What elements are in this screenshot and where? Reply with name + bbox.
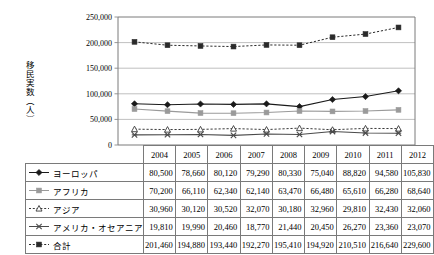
year-header-2005: 2005: [176, 146, 208, 164]
year-header-2006: 2006: [208, 146, 240, 164]
cross-marker: [132, 132, 137, 137]
series-label: 合計: [53, 239, 71, 251]
table-cell: 30,180: [272, 200, 304, 218]
table-cell: 30,120: [176, 200, 208, 218]
table-row: ヨーロッパ80,50078,66080,12079,29080,33075,04…: [26, 164, 434, 182]
table-cell: 19,810: [144, 218, 176, 236]
table-cell: 201,460: [144, 236, 176, 254]
table-cell: 23,070: [401, 218, 433, 236]
diamond-marker: [329, 96, 335, 102]
year-header-2010: 2010: [337, 146, 369, 164]
table-cell: 194,920: [305, 236, 337, 254]
y-tick-label: 200,000: [86, 39, 112, 48]
table-cell: 20,450: [305, 218, 337, 236]
table-cell: 210,510: [337, 236, 369, 254]
table-cell: 229,600: [401, 236, 433, 254]
table-cell: 68,640: [401, 182, 433, 200]
y-tick-label: 150,000: [86, 64, 112, 73]
legend-cell: アジア: [26, 200, 144, 218]
table-cell: 32,060: [401, 200, 433, 218]
table-cell: 23,360: [369, 218, 401, 236]
square-marker: [28, 186, 50, 195]
square-marker: [264, 110, 269, 115]
table-corner-cell: [26, 146, 144, 164]
table-cell: 32,960: [305, 200, 337, 218]
table-cell: 29,810: [337, 200, 369, 218]
table-cell: 79,290: [240, 164, 272, 182]
table-cell: 62,340: [208, 182, 240, 200]
table-cell: 32,430: [369, 200, 401, 218]
square-marker: [132, 107, 137, 112]
legend-cell: ヨーロッパ: [26, 164, 144, 182]
table-cell: 80,120: [208, 164, 240, 182]
line-chart: 250,000200,000150,000100,00050,0000: [0, 10, 434, 155]
chart-canvas: 250,000200,000150,000100,00050,0000: [0, 10, 434, 155]
table-row: アジア30,96030,12030,52032,07030,18032,9602…: [26, 200, 434, 218]
series-layer: [131, 25, 401, 138]
table-cell: 19,990: [176, 218, 208, 236]
cross-marker: [231, 133, 236, 138]
triangle-marker: [165, 127, 171, 133]
legend-marker-wrap: [28, 168, 50, 177]
table-cell: 70,200: [144, 182, 176, 200]
y-tick-label: 250,000: [86, 13, 112, 22]
table-cell: 30,520: [208, 200, 240, 218]
table-cell: 20,460: [208, 218, 240, 236]
legend-marker-wrap: [28, 204, 50, 213]
year-header-2007: 2007: [240, 146, 272, 164]
square-marker: [330, 109, 335, 114]
diamond-marker: [362, 93, 368, 99]
y-tick-label: 50,000: [90, 115, 112, 124]
diamond-marker: [197, 101, 203, 107]
year-header-2012: 2012: [401, 146, 433, 164]
cross-marker: [28, 222, 50, 231]
table-cell: 30,960: [144, 200, 176, 218]
diamond-marker: [395, 88, 401, 94]
table-cell: 26,270: [337, 218, 369, 236]
cross-marker: [36, 224, 41, 229]
table-cell: 195,410: [272, 236, 304, 254]
series-0: [131, 88, 401, 110]
table-cell: 192,270: [240, 236, 272, 254]
table-cell: 65,610: [337, 182, 369, 200]
table-cell: 78,660: [176, 164, 208, 182]
series-4: [132, 25, 401, 49]
year-header-2009: 2009: [305, 146, 337, 164]
table-cell: 21,440: [272, 218, 304, 236]
diamond-marker: [230, 101, 236, 107]
square-marker: [37, 242, 42, 247]
series-label: アメリカ・オセアニア: [53, 221, 143, 233]
square-marker: [231, 111, 236, 116]
square-marker: [396, 107, 401, 112]
square-marker: [198, 44, 203, 49]
legend-marker-wrap: [28, 222, 50, 231]
data-table: 200420052006200720082009201020112012 ヨーロ…: [25, 145, 434, 254]
series-2: [132, 125, 402, 132]
table-row: 合計201,460194,880193,440192,270195,410194…: [26, 236, 434, 254]
table-cell: 194,880: [176, 236, 208, 254]
square-marker: [37, 188, 42, 193]
table-cell: 105,830: [401, 164, 433, 182]
square-marker: [165, 109, 170, 114]
square-marker: [297, 109, 302, 114]
square-marker: [363, 109, 368, 114]
triangle-marker: [28, 204, 50, 213]
square-marker: [198, 111, 203, 116]
table-cell: 66,280: [369, 182, 401, 200]
diamond-marker: [131, 101, 137, 107]
table-body: ヨーロッパ80,50078,66080,12079,29080,33075,04…: [26, 164, 434, 254]
triangle-marker: [297, 125, 303, 131]
square-marker: [330, 35, 335, 40]
table-header-row: 200420052006200720082009201020112012: [26, 146, 434, 164]
cross-marker: [297, 132, 302, 137]
chart-page: 移民実数（人） 250,000200,000150,000100,00050,0…: [0, 0, 434, 255]
table-row: アメリカ・オセアニア19,81019,99020,46018,77021,440…: [26, 218, 434, 236]
legend-marker-wrap: [28, 186, 50, 195]
table-cell: 88,820: [337, 164, 369, 182]
legend-cell: アフリカ: [26, 182, 144, 200]
table-cell: 66,480: [305, 182, 337, 200]
table-cell: 94,580: [369, 164, 401, 182]
table-cell: 80,500: [144, 164, 176, 182]
year-header-2008: 2008: [272, 146, 304, 164]
gridlines: [118, 43, 415, 120]
